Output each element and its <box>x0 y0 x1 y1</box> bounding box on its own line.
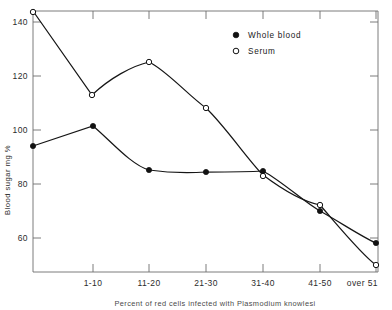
y-tick-label-80: 80 <box>18 179 28 189</box>
legend-label-whole-blood: Whole blood <box>248 31 301 40</box>
y-tick-label-140: 140 <box>13 17 28 27</box>
chart-background <box>0 0 392 310</box>
whole-blood-point-6 <box>373 240 378 245</box>
whole-blood-point-2 <box>146 167 151 172</box>
whole-blood-point-4 <box>260 168 265 173</box>
serum-point-4 <box>260 173 265 178</box>
legend-marker-serum-icon <box>233 48 239 54</box>
serum-point-6 <box>373 262 378 267</box>
x-tick-label-21-30: 21-30 <box>194 278 218 288</box>
whole-blood-point-3 <box>203 169 208 174</box>
whole-blood-point-1 <box>90 123 95 128</box>
serum-point-1 <box>89 92 94 97</box>
y-tick-label-100: 100 <box>13 125 28 135</box>
serum-point-5 <box>317 202 322 207</box>
legend-label-serum: Serum <box>248 47 276 56</box>
x-tick-label-11-20: 11-20 <box>137 278 160 288</box>
legend-marker-whole-blood-icon <box>233 32 239 38</box>
y-tick-label-120: 120 <box>13 71 28 81</box>
y-tick-label-60: 60 <box>18 233 28 243</box>
y-axis-title: Blood sugar mg % <box>3 145 12 215</box>
chart-figure: 140 120 100 80 60 Blood sugar mg % <box>0 0 392 310</box>
x-tick-label-over-51: over 51 <box>347 278 378 288</box>
x-axis-caption: Percent of red cells infected with Plasm… <box>114 299 315 308</box>
blood-sugar-line-chart: 140 120 100 80 60 Blood sugar mg % <box>0 0 392 310</box>
serum-point-2 <box>146 59 151 64</box>
whole-blood-point-0 <box>30 143 35 148</box>
x-tick-label-1-10: 1-10 <box>84 278 103 288</box>
serum-point-3 <box>203 105 208 110</box>
whole-blood-point-5 <box>317 208 322 213</box>
x-tick-label-41-50: 41-50 <box>308 278 332 288</box>
serum-point-0 <box>30 9 35 14</box>
x-tick-label-31-40: 31-40 <box>251 278 275 288</box>
